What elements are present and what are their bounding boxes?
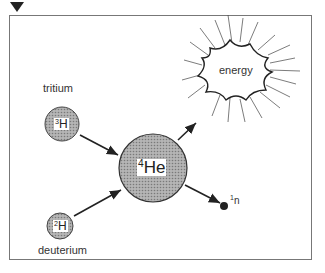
arrow-helium-to-energy [178, 123, 196, 140]
tritium-label: tritium [43, 82, 73, 94]
diagram-canvas [0, 0, 325, 273]
deuterium-label: deuterium [38, 244, 87, 256]
tritium-symbol: 3H [54, 118, 69, 130]
helium-symbol: 4He [137, 159, 166, 176]
arrow-helium-to-neutron [185, 185, 220, 203]
neutron-particle [220, 202, 228, 210]
energy-label: energy [219, 64, 253, 76]
arrow-tritium-to-helium [80, 135, 118, 155]
arrow-deuterium-to-helium [74, 190, 121, 216]
deuterium-symbol: 2H [53, 220, 68, 232]
neutron-symbol: 1n [230, 194, 239, 206]
